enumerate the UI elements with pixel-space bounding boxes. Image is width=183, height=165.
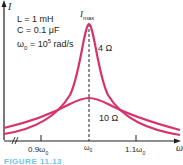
imax-sub: max: [83, 15, 94, 21]
param-l: L = 1 mH: [17, 14, 53, 24]
unit: rad/s: [51, 39, 74, 49]
tick-sub: 0: [45, 150, 48, 156]
curve-10-ohm: [4, 98, 180, 130]
x-axis-label: ω: [176, 143, 183, 153]
tick-label-w0: ω0: [84, 144, 92, 153]
curve-4-ohm-label: 4 Ω: [98, 43, 112, 53]
tick-label-1.1w0: 1.1ω0: [125, 145, 145, 156]
curve-10-ohm-label: 10 Ω: [99, 113, 118, 123]
y-axis-arrow-icon: [2, 0, 7, 7]
param-w0: ω0 = 105 rad/s: [17, 36, 74, 53]
figure-caption: FIGURE 11.13: [4, 157, 62, 165]
tick-text: 1.1ω: [125, 145, 142, 154]
param-c: C = 0.1 μF: [17, 25, 59, 35]
omega-symbol: ω: [17, 39, 24, 49]
equals: = 10: [27, 39, 47, 49]
imax-label: Imax: [80, 9, 94, 23]
tick-text: 0.9ω: [28, 145, 45, 154]
tick-label-0.9w0: 0.9ω0: [28, 145, 48, 156]
y-axis-label: I: [8, 2, 11, 12]
tick-sub: 0: [89, 147, 92, 153]
tick-sub: 0: [142, 150, 145, 156]
